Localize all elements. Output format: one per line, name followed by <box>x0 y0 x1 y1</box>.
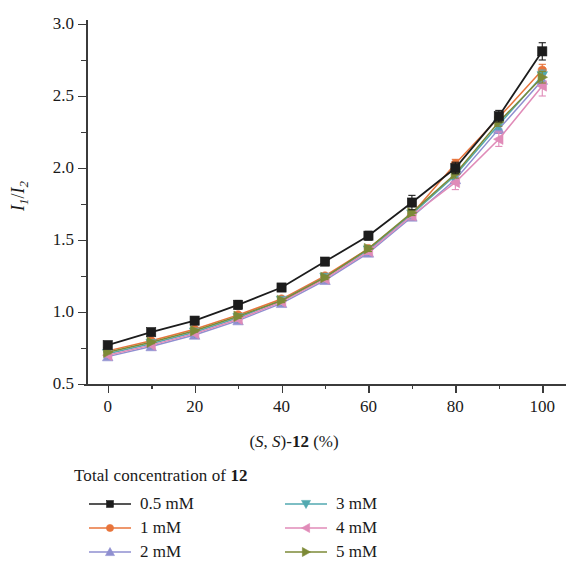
legend-item-3-mm[interactable]: 3 mM <box>270 494 466 514</box>
data-point <box>407 198 416 207</box>
y-tick-label: 1.5 <box>53 230 74 250</box>
legend-label: 4 mM <box>336 518 377 538</box>
plot-area: 0.51.01.52.02.53.0 020406080100 <box>86 24 564 384</box>
x-tick-major <box>108 384 109 393</box>
x-tick-major <box>368 384 369 393</box>
x-tick-label: 100 <box>530 397 556 417</box>
x-tick-label: 0 <box>103 397 112 417</box>
y-tick-label: 2.5 <box>53 86 74 106</box>
series-line <box>108 80 543 356</box>
legend: Total concentration of 12 0.5 mM3 mM1 mM… <box>74 466 494 564</box>
y-tick-major <box>78 168 86 169</box>
legend-title-text: Total concentration of <box>74 466 230 485</box>
x-tick-major <box>195 384 196 393</box>
x-axis-title-comma: , <box>264 432 273 451</box>
legend-swatch <box>284 520 328 536</box>
x-tick-minor <box>325 384 326 389</box>
legend-item-0-5-mm[interactable]: 0.5 mM <box>74 494 270 514</box>
x-tick-major <box>455 384 456 393</box>
x-tick-major <box>282 384 283 393</box>
legend-item-2-mm[interactable]: 2 mM <box>74 542 270 562</box>
y-tick-major <box>78 384 86 385</box>
data-point <box>364 231 373 240</box>
data-point <box>320 257 329 266</box>
y-axis-title-i1: I <box>8 205 28 211</box>
legend-item-4-mm[interactable]: 4 mM <box>270 518 466 538</box>
series-4-mm <box>102 76 546 361</box>
x-tick-minor <box>412 384 413 389</box>
x-tick-minor <box>151 384 152 389</box>
chart-figure: I1/I2 0.51.01.52.02.53.0 020406080100 (S… <box>0 0 588 569</box>
series-line <box>108 76 543 354</box>
y-axis-title-slash: / <box>8 193 28 198</box>
legend-label: 0.5 mM <box>140 494 194 514</box>
x-axis-title-dash: )- <box>281 432 292 451</box>
data-point <box>190 316 199 325</box>
x-axis-title: (S, S)-12 (%) <box>0 432 588 452</box>
y-tick-major <box>78 312 86 313</box>
x-tick-label: 20 <box>186 397 203 417</box>
legend-label: 5 mM <box>336 542 377 562</box>
series-line <box>108 70 543 351</box>
x-tick-label: 40 <box>273 397 290 417</box>
y-axis-title-sub1: 1 <box>16 199 31 205</box>
series-0-5-mm <box>103 43 547 350</box>
y-axis-title-i2: I <box>8 187 28 193</box>
x-tick-label: 60 <box>360 397 377 417</box>
legend-swatch <box>284 544 328 560</box>
legend-swatch <box>88 544 132 560</box>
data-point <box>233 300 242 309</box>
legend-items: 0.5 mM3 mM1 mM4 mM2 mM5 mM <box>74 492 494 564</box>
series-line <box>108 86 543 355</box>
legend-swatch <box>88 496 132 512</box>
x-axis-title-units: (%) <box>309 432 339 451</box>
y-tick-major <box>78 96 86 97</box>
series-layer <box>86 24 564 384</box>
data-point <box>451 163 460 172</box>
legend-label: 3 mM <box>336 494 377 514</box>
legend-title: Total concentration of 12 <box>74 466 494 486</box>
x-tick-major <box>542 384 543 393</box>
y-tick-label: 2.0 <box>53 158 74 178</box>
series-2-mm <box>102 74 547 360</box>
legend-label: 2 mM <box>140 542 181 562</box>
x-tick-minor <box>238 384 239 389</box>
legend-title-compound: 12 <box>230 466 247 485</box>
legend-item-1-mm[interactable]: 1 mM <box>74 518 270 538</box>
data-point <box>103 341 112 350</box>
data-point <box>538 47 547 56</box>
y-tick-label: 1.0 <box>53 302 74 322</box>
y-axis-title: I1/I2 <box>8 181 32 211</box>
series-5-mm <box>104 72 548 358</box>
series-line <box>108 77 543 352</box>
y-tick-major <box>78 240 86 241</box>
data-point <box>147 328 156 337</box>
legend-swatch <box>284 496 328 512</box>
y-axis-title-sub2: 2 <box>16 181 31 187</box>
x-tick-label: 80 <box>447 397 464 417</box>
legend-label: 1 mM <box>140 518 181 538</box>
y-tick-label: 3.0 <box>53 14 74 34</box>
x-axis-title-compound: 12 <box>292 432 309 451</box>
x-tick-minor <box>499 384 500 389</box>
legend-item-5-mm[interactable]: 5 mM <box>270 542 466 562</box>
series-1-mm <box>104 64 547 355</box>
legend-swatch <box>88 520 132 536</box>
series-line <box>108 51 543 345</box>
x-axis-title-s2: S <box>272 432 281 451</box>
x-axis-title-s1: S <box>255 432 264 451</box>
y-tick-major <box>78 24 86 25</box>
y-tick-label: 0.5 <box>53 374 74 394</box>
series-3-mm <box>102 70 547 359</box>
data-point <box>277 283 286 292</box>
data-point <box>494 112 503 121</box>
